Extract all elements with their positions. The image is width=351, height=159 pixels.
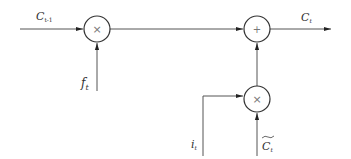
svg-text:Ct: Ct	[262, 140, 273, 153]
label-input-gate: it	[191, 138, 198, 151]
node-mult-input: ×	[244, 86, 270, 112]
label-candidate: Ct	[262, 136, 274, 153]
edge-input-gate	[203, 96, 243, 156]
label-forget-gate: ft	[80, 76, 89, 92]
plus-icon: +	[253, 24, 261, 35]
multiply-icon: ×	[92, 23, 101, 36]
label-cell-out: Ct	[301, 11, 312, 24]
node-add-cell: +	[244, 16, 270, 42]
multiply-icon: ×	[252, 93, 261, 106]
node-mult-forget: ×	[84, 16, 110, 42]
lstm-cell-diagram: × + × Ct-1 ft Ct it Ct	[0, 0, 351, 159]
label-prev-cell: Ct-1	[36, 10, 53, 23]
tilde-accent	[262, 136, 274, 138]
